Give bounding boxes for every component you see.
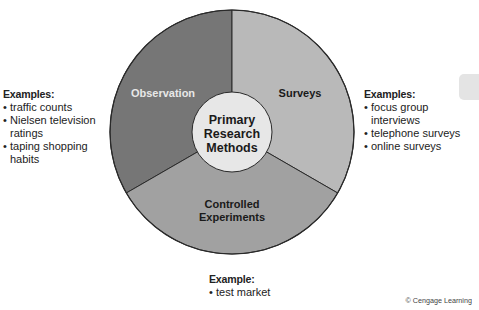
examples-title: Examples: xyxy=(364,88,467,101)
examples-title: Examples: xyxy=(3,88,95,101)
side-tab-decoration xyxy=(459,74,479,100)
center-label-line-2: Research xyxy=(204,127,260,141)
center-label-line-1: Primary xyxy=(209,113,256,127)
label-observation: Observation xyxy=(131,87,195,99)
copyright-credit: © Cengage Learning xyxy=(405,296,472,305)
list-item: traffic counts xyxy=(3,101,103,114)
list-item: taping shopping habits xyxy=(3,140,103,166)
center-label-line-3: Methods xyxy=(206,141,257,155)
examples-observation: Examples: traffic counts Nielsen televis… xyxy=(3,88,103,166)
label-controlled: Controlled xyxy=(205,198,260,210)
label-surveys: Surveys xyxy=(279,87,322,99)
examples-experiments: Example: test market xyxy=(209,273,299,299)
list-item: Nielsen television ratings xyxy=(3,114,103,140)
list-item: focus group interviews xyxy=(364,101,476,127)
examples-title: Example: xyxy=(209,273,292,286)
label-experiments: Experiments xyxy=(199,211,265,223)
list-item: telephone surveys xyxy=(364,127,476,140)
list-item: online surveys xyxy=(364,140,476,153)
list-item: test market xyxy=(209,286,299,299)
